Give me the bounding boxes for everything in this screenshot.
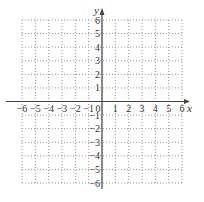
x-tick-label: −3 [57,103,68,114]
y-tick-label: 5 [95,28,100,39]
y-tick-label: −3 [89,137,100,148]
x-tick-label: −6 [17,103,28,114]
y-axis-arrow-icon [100,8,105,15]
x-tick-label: 4 [153,103,158,114]
y-tick-label: −1 [89,110,100,121]
y-tick-label: 6 [95,15,100,26]
x-tick-label: −2 [70,103,81,114]
x-tick-labels: −6−5−4−3−2−10123456 [17,103,185,114]
y-axis-label: y [93,4,99,16]
x-axis-label: x [186,102,192,114]
y-tick-label: −2 [89,123,100,134]
y-tick-label: 3 [95,55,100,66]
x-tick-label: 6 [180,103,185,114]
x-tick-label: −5 [30,103,41,114]
x-tick-label: 2 [126,103,131,114]
y-tick-label: 1 [95,82,100,93]
x-tick-label: −4 [43,103,54,114]
y-tick-label: −4 [89,150,100,161]
x-tick-label: 3 [140,103,145,114]
x-tick-label: 1 [113,103,118,114]
y-tick-label: 2 [95,69,100,80]
y-tick-label: −5 [89,164,100,175]
y-tick-label: 4 [95,42,100,53]
x-tick-label: 5 [166,103,171,114]
y-tick-label: −6 [89,178,100,189]
coordinate-grid: −6−5−4−3−2−10123456 −6−5−4−3−2−1123456 x… [0,0,204,202]
